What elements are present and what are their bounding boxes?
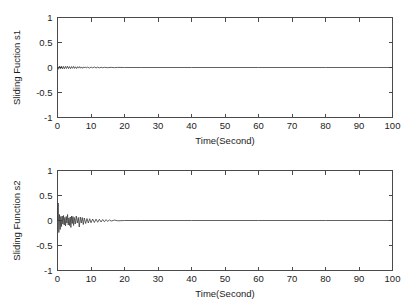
- plot-area-s2: 0102030405060708090100-1-0.500.51Time(Se…: [0, 153, 417, 305]
- x-tick-label: 40: [186, 273, 197, 284]
- y-tick-label: -1: [44, 112, 52, 123]
- x-tick-label: 70: [287, 120, 298, 131]
- chart-panel-s2: 0102030405060708090100-1-0.500.51Time(Se…: [0, 153, 417, 305]
- y-tick-label: 0: [47, 62, 52, 73]
- x-tick-label: 60: [253, 273, 264, 284]
- x-tick-label: 90: [354, 273, 365, 284]
- x-tick-label: 0: [55, 273, 60, 284]
- y-tick-label: -1: [44, 265, 52, 276]
- figure-container: 0102030405060708090100-1-0.500.51Time(Se…: [0, 0, 417, 305]
- x-tick-label: 30: [153, 120, 164, 131]
- chart-panel-s1: 0102030405060708090100-1-0.500.51Time(Se…: [0, 0, 417, 152]
- x-tick-label: 80: [320, 273, 331, 284]
- data-trace-s2: [58, 203, 393, 233]
- x-tick-label: 0: [55, 120, 60, 131]
- x-axis-label: Time(Second): [195, 135, 254, 146]
- y-tick-label: -0.5: [36, 87, 52, 98]
- x-tick-label: 100: [385, 273, 401, 284]
- y-axis-label: Sliding Function s2: [11, 180, 22, 260]
- x-tick-label: 50: [220, 120, 231, 131]
- x-tick-label: 30: [153, 273, 164, 284]
- x-axis-label: Time(Second): [195, 288, 254, 299]
- y-axis-label: Sliding Fuction s1: [11, 30, 22, 105]
- data-trace-s1: [58, 66, 393, 69]
- y-tick-label: 1: [47, 165, 52, 176]
- x-tick-label: 100: [385, 120, 401, 131]
- x-tick-label: 50: [220, 273, 231, 284]
- y-tick-label: 0: [47, 215, 52, 226]
- plot-area-s1: 0102030405060708090100-1-0.500.51Time(Se…: [0, 0, 417, 152]
- x-tick-label: 20: [119, 120, 130, 131]
- y-tick-label: -0.5: [36, 240, 52, 251]
- x-tick-label: 80: [320, 120, 331, 131]
- x-tick-label: 70: [287, 273, 298, 284]
- x-tick-label: 40: [186, 120, 197, 131]
- y-tick-label: 0.5: [39, 190, 52, 201]
- x-tick-label: 10: [86, 273, 97, 284]
- y-tick-label: 0.5: [39, 37, 52, 48]
- x-tick-label: 10: [86, 120, 97, 131]
- y-tick-label: 1: [47, 12, 52, 23]
- x-tick-label: 90: [354, 120, 365, 131]
- x-tick-label: 60: [253, 120, 264, 131]
- x-tick-label: 20: [119, 273, 130, 284]
